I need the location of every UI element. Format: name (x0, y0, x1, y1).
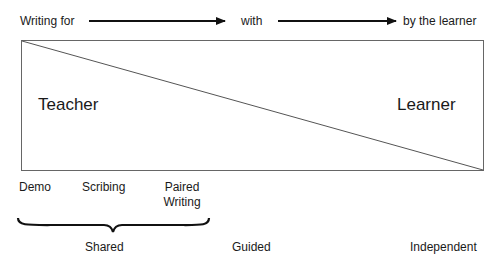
shared-brace (18, 218, 209, 232)
diagram-graphics (0, 0, 500, 267)
label-with: with (241, 14, 262, 28)
category-shared: Shared (85, 240, 124, 254)
stage-writing: Writing (163, 195, 200, 209)
label-teacher: Teacher (38, 95, 98, 115)
category-guided: Guided (232, 240, 271, 254)
stage-paired: Paired (165, 180, 200, 194)
stage-scribing: Scribing (82, 180, 125, 194)
label-learner: Learner (397, 95, 456, 115)
stage-demo: Demo (19, 180, 51, 194)
category-independent: Independent (410, 240, 477, 254)
label-by-the-learner: by the learner (403, 14, 476, 28)
label-writing-for: Writing for (20, 14, 74, 28)
